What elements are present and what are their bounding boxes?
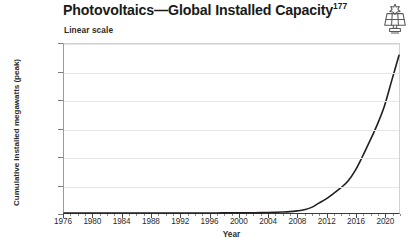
gridline-horizontal [64, 73, 399, 74]
x-axis-minor-tick [378, 214, 379, 216]
gridline-horizontal [64, 158, 399, 159]
x-axis-minor-tick [283, 214, 284, 216]
chart-title-text: Photovoltaics—Global Installed Capacity [63, 2, 333, 18]
x-axis-minor-tick [349, 214, 350, 216]
x-axis-minor-tick [312, 214, 313, 216]
chart-subtitle: Linear scale [64, 25, 113, 35]
y-axis-tick [58, 72, 63, 73]
x-axis-minor-tick [144, 214, 145, 216]
x-axis-minor-tick [173, 214, 174, 216]
x-axis-minor-tick [166, 214, 167, 216]
x-axis-minor-tick [253, 214, 254, 216]
x-axis-minor-tick [100, 214, 101, 216]
series-path [64, 55, 399, 213]
x-axis-tick-label: 2020 [365, 217, 405, 226]
x-axis-minor-tick [188, 214, 189, 216]
x-axis-minor-tick [129, 214, 130, 216]
x-axis-minor-tick [334, 214, 335, 216]
gridline-horizontal [64, 44, 399, 45]
x-axis-minor-tick [78, 214, 79, 216]
gridline-horizontal [64, 101, 399, 102]
y-axis-title: Cumulative installed megawatts (peak) [12, 43, 21, 223]
x-axis-minor-tick [70, 214, 71, 216]
x-axis-title: Year [63, 230, 400, 239]
plot-area [63, 43, 400, 214]
x-axis-minor-tick [107, 214, 108, 216]
y-axis-tick [58, 43, 63, 44]
y-axis-tick [58, 100, 63, 101]
y-axis-tick [58, 157, 63, 158]
y-axis-tick [58, 186, 63, 187]
x-axis-minor-tick [246, 214, 247, 216]
gridline-horizontal [64, 187, 399, 188]
x-axis-minor-tick [319, 214, 320, 216]
x-axis-minor-tick [114, 214, 115, 216]
x-axis-minor-tick [275, 214, 276, 216]
x-axis-minor-tick [202, 214, 203, 216]
x-axis-minor-tick [393, 214, 394, 216]
x-axis-minor-tick [290, 214, 291, 216]
gridline-horizontal [64, 130, 399, 131]
x-axis-minor-tick [217, 214, 218, 216]
chart-title-footnote: 177 [333, 1, 347, 11]
x-axis-minor-tick [371, 214, 372, 216]
x-axis-minor-tick [85, 214, 86, 216]
page-title: Photovoltaics—Global Installed Capacity1… [63, 1, 363, 18]
x-axis-minor-tick [158, 214, 159, 216]
x-axis-minor-tick [224, 214, 225, 216]
x-axis-minor-tick [400, 214, 401, 216]
y-axis-tick [58, 129, 63, 130]
solar-panel-icon [378, 2, 412, 36]
x-axis-minor-tick [363, 214, 364, 216]
x-axis-minor-tick [136, 214, 137, 216]
x-axis-minor-tick [232, 214, 233, 216]
x-axis-minor-tick [195, 214, 196, 216]
x-axis-minor-tick [305, 214, 306, 216]
x-axis-minor-tick [261, 214, 262, 216]
x-axis-minor-tick [341, 214, 342, 216]
